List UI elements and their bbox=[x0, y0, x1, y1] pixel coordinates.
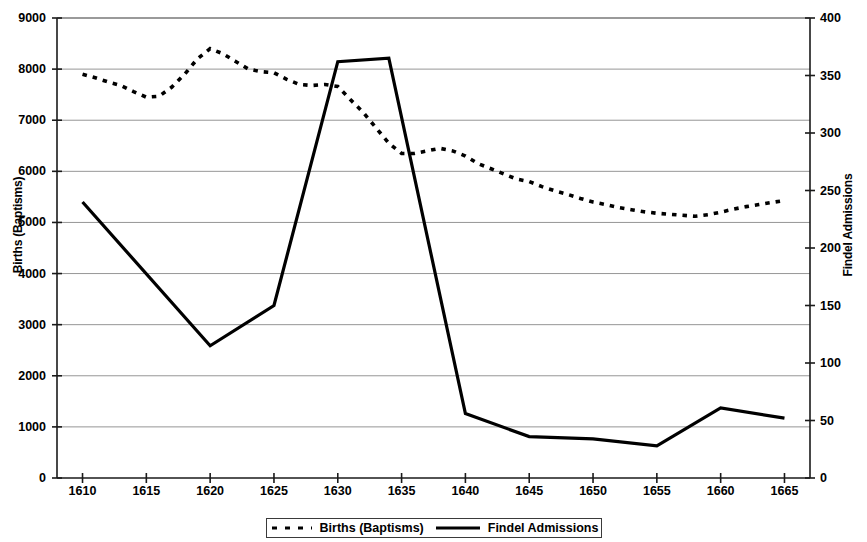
series-line-births bbox=[83, 49, 785, 217]
series-line-findel bbox=[83, 58, 785, 446]
dotted-line-marker bbox=[270, 523, 314, 533]
legend-item-births: Births (Baptisms) bbox=[270, 521, 424, 535]
data-series-layer bbox=[83, 49, 785, 446]
chart-legend: Births (Baptisms) Findel Admissions bbox=[266, 518, 602, 538]
solid-line-marker bbox=[434, 523, 482, 533]
legend-label-findel: Findel Admissions bbox=[488, 521, 599, 535]
legend-label-births: Births (Baptisms) bbox=[320, 521, 424, 535]
gridlines bbox=[57, 18, 810, 427]
tick-marks bbox=[52, 18, 815, 483]
plot-area bbox=[0, 0, 867, 542]
legend-item-findel: Findel Admissions bbox=[434, 521, 599, 535]
chart-container: Births (Baptisms) Findel Admissions 0100… bbox=[0, 0, 867, 542]
